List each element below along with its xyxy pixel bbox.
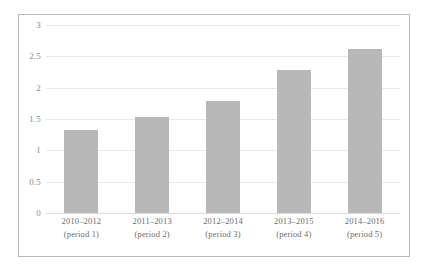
bar [135, 117, 169, 214]
x-axis-period-range: 2012–2014 [203, 216, 243, 226]
x-axis-period-name: (period 5) [322, 228, 408, 241]
x-axis-period-range: 2014–2016 [345, 216, 385, 226]
x-axis-tick-label: 2014–2016(period 5) [322, 215, 408, 240]
y-axis-tick-label: 2.5 [29, 51, 41, 61]
x-axis-period-range: 2011–2013 [133, 216, 172, 226]
bar [277, 70, 311, 213]
y-axis-tick-label: 1 [36, 145, 41, 155]
plot-area: 2010–2012(period 1)2011–2013(period 2)20… [46, 25, 400, 213]
bar-chart: 00.511.522.53 2010–2012(period 1)2011–20… [0, 0, 428, 271]
y-axis-tick-labels: 00.511.522.53 [20, 25, 41, 213]
gridline [46, 213, 400, 214]
bar [64, 130, 98, 213]
y-axis-tick-label: 2 [36, 83, 41, 93]
y-axis-tick-label: 3 [36, 20, 41, 30]
bar [206, 101, 240, 213]
gridline [46, 25, 400, 26]
bar [348, 49, 382, 213]
y-axis-tick-label: 1.5 [29, 114, 41, 124]
x-axis-period-range: 2010–2012 [62, 216, 102, 226]
y-axis-tick-label: 0.5 [29, 177, 41, 187]
x-axis-period-range: 2013–2015 [274, 216, 314, 226]
